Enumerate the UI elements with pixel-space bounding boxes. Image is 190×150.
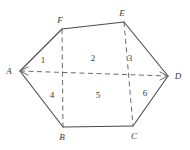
edge-F-E: [62, 22, 124, 29]
vertex-label-C: C: [131, 132, 137, 141]
vertex-label-D: D: [175, 72, 182, 81]
region-label-2: 2: [91, 54, 96, 63]
region-label-5: 5: [96, 91, 101, 100]
vertex-label-A: A: [6, 67, 12, 76]
geometry-figure: A B C D E F 1 2 3 4 5 6: [0, 0, 190, 150]
edge-B-C: [63, 126, 133, 127]
dashed-F-B: [62, 29, 63, 127]
solid-outline-group: [20, 22, 168, 127]
edge-E-D: [124, 22, 168, 76]
arrowhead-group: [20, 67, 168, 80]
dashed-partition-group: [20, 22, 168, 127]
region-label-6: 6: [143, 89, 148, 98]
vertex-label-E: E: [119, 9, 125, 18]
vertex-label-B: B: [59, 133, 65, 142]
region-label-4: 4: [50, 91, 55, 100]
vertex-label-F: F: [57, 16, 63, 25]
dashed-E-C: [124, 22, 133, 126]
edge-A-B: [20, 71, 63, 127]
region-label-3: 3: [128, 54, 133, 63]
edge-A-F: [20, 29, 62, 71]
edge-C-D: [133, 76, 168, 126]
dashed-A-D: [20, 71, 168, 76]
hexagon-diagram-svg: [0, 0, 190, 150]
region-label-1: 1: [41, 56, 46, 65]
